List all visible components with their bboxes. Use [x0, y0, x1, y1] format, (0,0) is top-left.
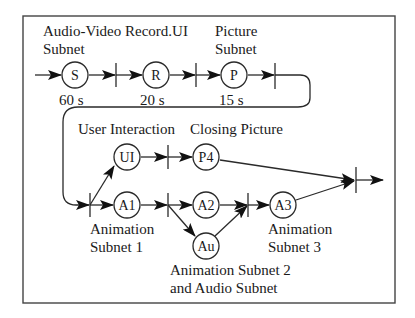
label-anim-subnet-3-line2: Subnet 3: [268, 239, 321, 255]
label-picture-subnet: Picture: [215, 23, 258, 39]
label-av-subnet-line2: Subnet: [43, 41, 86, 57]
duration-s: 60 s: [59, 92, 84, 108]
edge-a3-t8: [296, 181, 354, 200]
petri-net-diagram: Audio-Video Record.UI Subnet Picture Sub…: [0, 0, 415, 318]
place-a2: A2: [193, 192, 219, 218]
place-a1: A1: [114, 192, 140, 218]
place-s: S: [62, 62, 88, 88]
edge-au-t7: [215, 206, 247, 236]
label-user-interaction: User Interaction: [78, 121, 176, 137]
svg-text:Au: Au: [197, 239, 214, 254]
label-anim-subnet-1-line2: Subnet 1: [90, 239, 143, 255]
svg-text:S: S: [71, 68, 79, 83]
label-anim-subnet-2-line2: and Audio Subnet: [170, 280, 278, 296]
duration-r: 20 s: [140, 92, 165, 108]
duration-p: 15 s: [219, 92, 244, 108]
label-picture-subnet-line2: Subnet: [215, 41, 258, 57]
edge-loop-to-t4: [63, 75, 310, 205]
label-anim-subnet-1: Animation: [90, 221, 155, 237]
label-av-subnet: Audio-Video Record.UI: [43, 23, 188, 39]
place-au: Au: [193, 233, 219, 259]
place-p4: P4: [193, 144, 219, 170]
svg-text:P: P: [230, 68, 238, 83]
svg-text:A3: A3: [274, 198, 291, 213]
place-r: R: [143, 62, 169, 88]
place-a3: A3: [270, 192, 296, 218]
edge-t4-ui: [90, 166, 114, 205]
label-closing-picture: Closing Picture: [190, 121, 283, 137]
svg-text:A2: A2: [197, 198, 214, 213]
svg-text:P4: P4: [199, 150, 214, 165]
place-ui: UI: [114, 144, 140, 170]
label-anim-subnet-2: Animation Subnet 2: [170, 262, 291, 278]
place-p: P: [221, 62, 247, 88]
edge-t6-au: [168, 205, 195, 236]
svg-text:UI: UI: [120, 150, 135, 165]
svg-text:A1: A1: [118, 198, 135, 213]
label-anim-subnet-3: Animation: [268, 221, 333, 237]
edge-p4-t8: [220, 160, 354, 180]
svg-text:R: R: [151, 68, 161, 83]
